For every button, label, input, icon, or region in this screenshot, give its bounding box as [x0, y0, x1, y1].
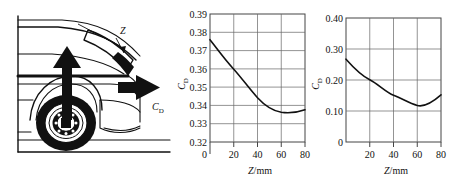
svg-text:0.38: 0.38: [190, 27, 208, 38]
chart-a-x-axis-label: Z/mm: [248, 165, 272, 176]
chart-b-svg: 0.40 0.30 0.20 0.10 0 20 40 60 80 Z/mm: [310, 0, 452, 183]
svg-text:0.39: 0.39: [190, 9, 208, 20]
car-diagram-svg: Z: [0, 0, 180, 183]
svg-text:0.34: 0.34: [190, 100, 208, 111]
svg-text:0.33: 0.33: [190, 118, 208, 129]
cd-label: CD: [152, 101, 164, 115]
chart-a-origin-label: 0: [202, 149, 207, 160]
drag-direction-arrow: [118, 75, 160, 100]
chart-cd-vs-z-a: 0.39 0.38 0.37 0.36 0.35 0.34 0.33 0.32 …: [176, 0, 314, 183]
chart-b-origin-label: 0: [338, 137, 343, 148]
chart-a-y-axis-label: CD: [176, 78, 190, 90]
chart-b-y-axis-label: CD: [310, 78, 324, 90]
vehicle-front-end-diagram: Z: [0, 0, 180, 183]
chart-b-x-ticks: [370, 142, 441, 147]
chart-b-x-tick-labels: 20 40 60 80: [365, 149, 446, 160]
chart-b-y-tick-labels: 0.40 0.30 0.20 0.10 0: [326, 13, 344, 148]
chart-a-svg: 0.39 0.38 0.37 0.36 0.35 0.34 0.33 0.32 …: [176, 0, 314, 183]
svg-text:40: 40: [389, 149, 399, 160]
svg-text:60: 60: [412, 149, 422, 160]
svg-text:80: 80: [300, 149, 310, 160]
figure-root: Z: [0, 0, 452, 183]
svg-text:20: 20: [229, 149, 239, 160]
svg-text:20: 20: [365, 149, 375, 160]
chart-cd-vs-z-b: 0.40 0.30 0.20 0.10 0 20 40 60 80 Z/mm: [310, 0, 452, 183]
grille-line: [100, 100, 140, 112]
svg-text:0.36: 0.36: [190, 64, 208, 75]
svg-text:0.37: 0.37: [190, 45, 208, 56]
chart-a-x-tick-labels: 20 40 60 80: [229, 149, 310, 160]
chart-a-y-tick-labels: 0.39 0.38 0.37 0.36 0.35 0.34 0.33 0.32: [190, 9, 208, 148]
svg-text:0.40: 0.40: [326, 13, 344, 24]
svg-text:0.30: 0.30: [326, 44, 344, 55]
chart-b-x-axis-label: Z/mm: [384, 165, 408, 176]
svg-text:0.10: 0.10: [326, 106, 344, 117]
svg-text:0.32: 0.32: [190, 137, 208, 148]
svg-text:0.35: 0.35: [190, 82, 208, 93]
z-label: Z: [120, 25, 126, 36]
svg-text:40: 40: [253, 149, 263, 160]
chart-a-x-ticks: [234, 142, 305, 147]
bumper-lower-line: [100, 100, 140, 133]
svg-text:60: 60: [276, 149, 286, 160]
svg-text:80: 80: [436, 149, 446, 160]
svg-text:0.20: 0.20: [326, 75, 344, 86]
